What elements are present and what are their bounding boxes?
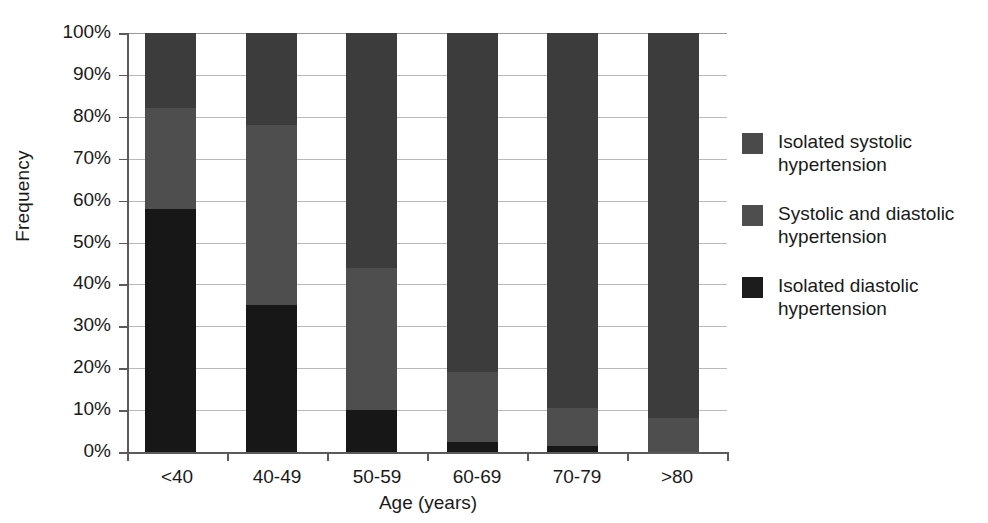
bar-segment <box>547 408 598 446</box>
y-tick-label: 60% <box>39 189 111 211</box>
x-tick-label: 40-49 <box>227 466 327 488</box>
gridline <box>127 201 727 202</box>
y-axis-title: Frequency <box>12 126 34 266</box>
gridline <box>127 75 727 76</box>
bar-segment <box>346 410 397 452</box>
x-tick-mark <box>327 452 329 461</box>
chart-legend: Isolated systolichypertensionSystolic an… <box>742 130 984 346</box>
bar-70-79 <box>547 33 598 452</box>
bar-segment <box>648 418 699 452</box>
x-tick-label: <40 <box>127 466 227 488</box>
x-tick-label: 60-69 <box>427 466 527 488</box>
legend-item: Isolated diastolichypertension <box>742 274 984 320</box>
bar-segment <box>447 442 498 452</box>
plot-area <box>127 33 727 452</box>
bar-segment <box>246 33 297 125</box>
x-tick-label: >80 <box>627 466 727 488</box>
gridline <box>127 159 727 160</box>
bar-segment <box>648 33 699 418</box>
gridline <box>127 243 727 244</box>
y-tick-label: 100% <box>39 21 111 43</box>
y-tick-label: 80% <box>39 105 111 127</box>
gridline <box>127 284 727 285</box>
y-axis-tick-labels: 0%10%20%30%40%50%60%70%80%90%100% <box>33 0 111 523</box>
legend-item: Isolated systolichypertension <box>742 130 984 176</box>
x-tick-mark <box>227 452 229 461</box>
bar-segment <box>447 372 498 441</box>
bar-segment <box>145 108 196 209</box>
gridline <box>127 117 727 118</box>
x-tick-mark <box>627 452 629 461</box>
bar-80 <box>648 33 699 452</box>
x-tick-mark <box>527 452 529 461</box>
legend-swatch-icon <box>742 277 763 298</box>
bar-segment <box>547 33 598 408</box>
x-tick-mark <box>727 452 729 461</box>
y-axis-line <box>127 33 129 453</box>
y-tick-label: 70% <box>39 147 111 169</box>
bar-60-69 <box>447 33 498 452</box>
y-tick-label: 10% <box>39 398 111 420</box>
legend-label: Isolated diastolichypertension <box>778 274 984 320</box>
bar-segment <box>346 268 397 410</box>
gridline <box>127 33 727 34</box>
legend-label: Isolated systolichypertension <box>778 130 984 176</box>
x-tick-mark <box>427 452 429 461</box>
legend-label: Systolic and diastolichypertension <box>778 202 984 248</box>
bar-40-49 <box>246 33 297 452</box>
bar-segment <box>145 33 196 108</box>
bar-segment <box>447 33 498 372</box>
legend-swatch-icon <box>742 205 763 226</box>
x-tick-mark <box>127 452 129 461</box>
bar-segment <box>246 125 297 305</box>
y-tick-label: 90% <box>39 63 111 85</box>
legend-swatch-icon <box>742 133 763 154</box>
gridline <box>127 326 727 327</box>
y-tick-label: 0% <box>39 440 111 462</box>
bar-50-59 <box>346 33 397 452</box>
x-axis-title: Age (years) <box>127 492 729 514</box>
gridline <box>127 368 727 369</box>
legend-item: Systolic and diastolichypertension <box>742 202 984 248</box>
x-tick-label: 70-79 <box>527 466 627 488</box>
y-tick-label: 50% <box>39 231 111 253</box>
bar-segment <box>145 209 196 452</box>
gridline <box>127 410 727 411</box>
x-tick-label: 50-59 <box>327 466 427 488</box>
bar-segment <box>346 33 397 268</box>
stacked-bar-chart: Frequency 0%10%20%30%40%50%60%70%80%90%1… <box>0 0 988 523</box>
y-tick-label: 40% <box>39 272 111 294</box>
bar-segment <box>246 305 297 452</box>
bar-40 <box>145 33 196 452</box>
y-tick-label: 30% <box>39 314 111 336</box>
y-tick-label: 20% <box>39 356 111 378</box>
